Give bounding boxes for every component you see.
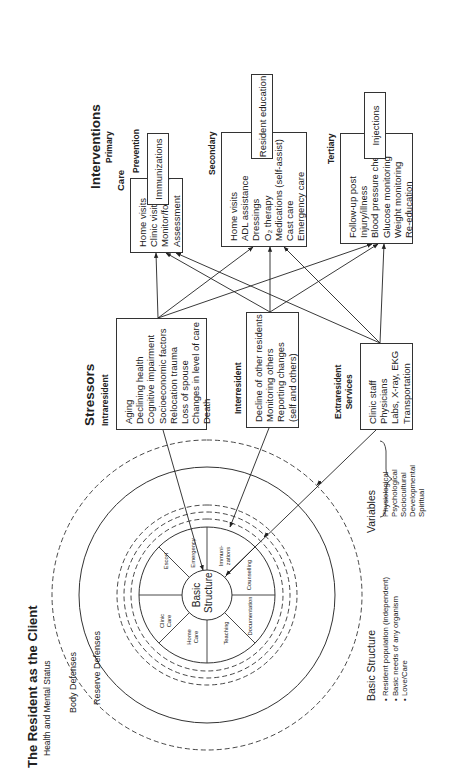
list-item: Physiological: [381, 465, 390, 517]
list-item: Death: [201, 324, 212, 424]
diagram-canvas: The Resident as the Client Health and Me…: [0, 0, 450, 781]
segment-teaching: Teaching: [223, 621, 230, 644]
list-item: Physicians: [378, 349, 389, 424]
list-item: Cognitive impairment: [145, 324, 156, 424]
segment-escort: Escort: [163, 553, 170, 569]
basic-structure-center-label: Basic Structure: [191, 577, 215, 613]
list-item: Psychological: [390, 465, 399, 517]
injections-box: Injections: [364, 92, 386, 159]
stressors-heading: Stressors: [82, 364, 97, 426]
extraresident-label-line1: Extraresident: [333, 365, 344, 419]
list-item: Re-education: [403, 139, 414, 238]
interresident-box: Decline of other residents Monitoring ot…: [246, 312, 299, 428]
segment-home-care: Home Care: [186, 629, 200, 644]
list-item: Decline of other residents: [253, 318, 264, 422]
page-title: The Resident as the Client: [25, 605, 40, 768]
list-item: Changes in level of care: [190, 324, 201, 424]
segment-immunizations-line1: Immuni-: [218, 546, 225, 567]
intraresident-to-core-arrow: [163, 430, 203, 570]
primary-label: Primary: [104, 131, 114, 163]
intraresident-box: Aging Declining health Cognitive impairm…: [116, 318, 207, 430]
tertiary-label: Tertiary: [326, 133, 336, 164]
resident-education-box: Resident education: [251, 74, 273, 159]
segment-emergency: Emergency: [190, 538, 197, 567]
extraresident-to-core-arrow: [226, 430, 376, 575]
list-item: Cast care: [284, 138, 295, 241]
list-item: Socioeconomic factors: [157, 324, 168, 424]
body-defenses-label: Body Defenses: [68, 652, 78, 713]
list-item: Reporting changes: [275, 318, 286, 422]
interventions-heading: Interventions: [88, 104, 103, 189]
list-item: • Love/Care: [400, 577, 410, 701]
reserve-defenses-label: Reserve Defenses: [92, 631, 102, 705]
immunizations-box: Immunizations: [147, 133, 169, 205]
segment-immunizations: Immuni- zations: [218, 546, 232, 567]
segment-immunizations-line2: zations: [225, 546, 232, 567]
segment-clinic-line2: Care: [166, 614, 173, 628]
list-item: Developmental: [408, 465, 417, 517]
page-subtitle: Health and Mental Status: [42, 661, 52, 756]
list-item: Loss of spouse: [179, 324, 190, 424]
list-item: Assessment: [171, 184, 182, 247]
list-item: Home visits: [228, 138, 239, 241]
legend-basic-structure-heading: Basic Structure: [365, 630, 377, 701]
list-item: Spiritual: [417, 465, 426, 517]
secondary-label: Secondary: [207, 132, 217, 175]
segment-documentation: Documentation: [247, 597, 254, 636]
list-item: (self and others): [287, 318, 298, 422]
list-item: Weight monitoring: [392, 139, 403, 238]
list-item: Declining health: [134, 324, 145, 424]
list-item: • Resident population (independent): [381, 577, 391, 701]
basic-label: Basic: [191, 577, 203, 613]
list-item: Aging: [123, 324, 134, 424]
list-item: Sociocultural: [399, 465, 408, 517]
list-item: ADL assistance: [239, 138, 250, 241]
intraresident-label: Intraresident: [100, 375, 110, 427]
list-item: Medications (self-assist): [273, 138, 284, 241]
extraresident-label-line2: Services: [344, 365, 355, 419]
list-item: Follow-up post: [347, 139, 358, 238]
prevention-label: Prevention: [131, 129, 141, 173]
list-item: Monitoring others: [264, 318, 275, 422]
list-item: Relocation trauma: [168, 324, 179, 424]
legend-variables-heading: Variables: [365, 490, 377, 533]
legend-variables-list: Physiological Psychological Sociocultura…: [381, 465, 426, 517]
interresident-to-wheel-arrow: [230, 428, 269, 527]
extraresident-box: Clinic staff Physicians Labs, X-ray, EKG…: [360, 343, 413, 430]
extraresident-label: Extraresident Services: [333, 365, 355, 419]
list-item: Clinic staff: [367, 349, 378, 424]
segment-counselling: Counselling: [246, 560, 253, 590]
segment-clinic-line1: Clinic: [159, 614, 166, 628]
segment-clinic-care: Clinic Care: [159, 614, 173, 628]
care-label: Care: [115, 170, 126, 191]
structure-label: Structure: [203, 577, 215, 613]
interresident-label: Interresident: [233, 363, 243, 415]
list-item: Labs, X-ray, EKG: [389, 349, 400, 424]
segment-home-line1: Home: [186, 629, 193, 644]
list-item: Transportation: [401, 349, 412, 424]
list-item: Emergency care: [295, 138, 306, 241]
list-item: • Basic needs of any organism: [391, 577, 401, 701]
legend-basic-structure-list: • Resident population (independent) • Ba…: [381, 577, 410, 701]
segment-home-line2: Care: [193, 629, 200, 644]
